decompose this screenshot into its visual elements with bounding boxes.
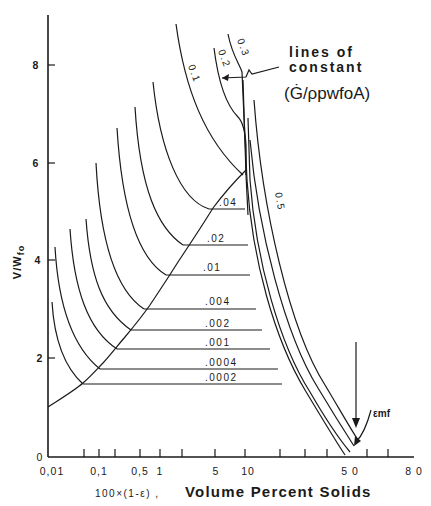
svg-text:Volume Percent Solids: Volume Percent Solids (185, 483, 372, 500)
svg-text:(Ġ/ρpwfoA): (Ġ/ρpwfoA) (284, 83, 370, 103)
svg-text:.04: .04 (219, 197, 237, 208)
svg-text:5 0: 5 0 (341, 465, 359, 477)
svg-text:.0002: .0002 (205, 372, 238, 383)
upper-curves (176, 24, 248, 215)
svg-text:100×(1-ε) ,: 100×(1-ε) , (95, 488, 160, 499)
svg-text:6: 6 (33, 157, 40, 169)
svg-text:10: 10 (241, 465, 255, 477)
svg-text:0.3: 0.3 (235, 37, 252, 58)
right-descending-curves (244, 100, 358, 455)
svg-text:εmf: εmf (373, 408, 391, 419)
svg-text:.0004: .0004 (205, 357, 238, 368)
descending-curves (52, 82, 209, 384)
svg-text:1: 1 (157, 465, 164, 477)
svg-text:0,5: 0,5 (131, 465, 149, 477)
svg-text:8 0: 8 0 (405, 465, 423, 477)
svg-text:0.5: 0.5 (273, 191, 287, 211)
svg-text:2: 2 (37, 352, 44, 364)
svg-text:.002: .002 (205, 318, 230, 329)
plateau-lines (83, 209, 282, 384)
y-tick-labels: 8 6 4 2 0 (33, 59, 44, 463)
svg-text:5: 5 (213, 465, 220, 477)
svg-text:0,01: 0,01 (40, 465, 64, 477)
y-axis-label: V/Wfo (11, 245, 26, 279)
emf-marker: εmf (352, 342, 391, 446)
x-axis-label: 100×(1-ε) , Volume Percent Solids (95, 483, 372, 500)
x-tick-labels: 0,01 0,1 0,5 1 5 10 5 0 8 0 (40, 465, 423, 477)
svg-text:0: 0 (37, 451, 44, 463)
svg-text:.004: .004 (205, 296, 230, 307)
svg-text:.02: .02 (207, 233, 225, 244)
svg-text:constant: constant (289, 59, 363, 75)
svg-text:8: 8 (33, 59, 40, 71)
svg-text:.01: .01 (203, 262, 221, 273)
svg-text:V/Wfo: V/Wfo (11, 245, 26, 279)
y-ticks (48, 65, 55, 358)
chart-figure: 8 6 4 2 0 0,01 0,1 0,5 1 5 10 5 0 8 0 10… (0, 0, 431, 506)
svg-text:lines of: lines of (289, 44, 354, 60)
svg-text:.001: .001 (205, 337, 230, 348)
plateau-labels: .0002 .0004 .001 .002 .004 .01 .02 .04 (203, 197, 238, 383)
svg-text:0.2: 0.2 (216, 48, 233, 69)
svg-text:0,1: 0,1 (90, 465, 108, 477)
svg-text:4: 4 (35, 254, 42, 266)
upper-curve-labels: 0.1 0.2 0.3 0.5 (186, 37, 287, 212)
svg-text:0.1: 0.1 (186, 63, 203, 84)
